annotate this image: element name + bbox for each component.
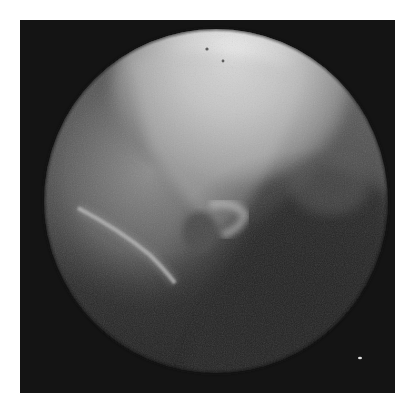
field-of-view bbox=[20, 20, 395, 393]
fluoroscopy-image bbox=[20, 20, 395, 393]
image-frame: Circular fluoroscopic/radiographic field… bbox=[20, 20, 395, 393]
white-speck bbox=[358, 357, 362, 359]
